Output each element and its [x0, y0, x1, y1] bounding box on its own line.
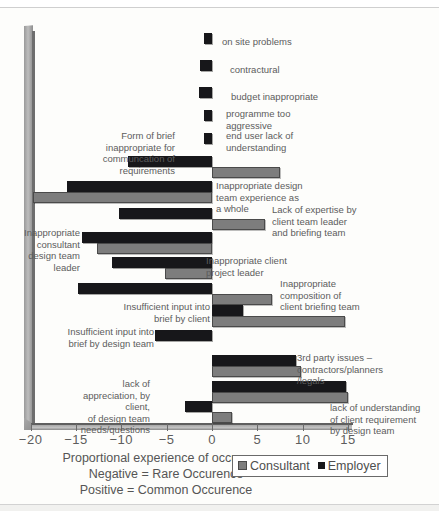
bar-employer-9	[112, 257, 212, 268]
bar-consultant-11	[212, 316, 345, 327]
category-label-insufficient-input-client: Insufficient input into brief by client	[118, 301, 210, 324]
bar-employer-1	[200, 60, 212, 71]
bar-employer-0	[204, 33, 212, 44]
category-label-inappropriate-client-pl: Inappropriate client project leader	[206, 255, 316, 278]
x-tick-0	[31, 424, 32, 431]
bar-employer-3	[204, 110, 212, 121]
legend-swatch-employer-icon	[318, 462, 325, 469]
x-tick-label-6: 10	[295, 432, 310, 447]
category-label-third-party: 3rd party issues – contractors/planners …	[297, 352, 409, 387]
bar-consultant-13	[212, 366, 301, 377]
x-tick-label-5: 5	[253, 432, 261, 447]
category-label-lack-of-expertise: Lack of expertise by client team leader …	[272, 204, 392, 239]
category-label-lack-of-appreciation: lack of appreciation, by client, of desi…	[60, 378, 150, 436]
x-tick-label-3: −5	[159, 432, 175, 447]
bar-consultant-15	[212, 412, 232, 423]
bar-employer-11	[212, 305, 243, 316]
bar-employer-6	[67, 181, 212, 192]
category-label-insufficient-input-design: Insufficient input into brief by design …	[62, 326, 154, 349]
bar-employer-4	[204, 133, 212, 144]
bar-consultant-5	[212, 167, 280, 178]
bar-employer-13	[212, 355, 296, 366]
bar-consultant-14	[212, 392, 348, 403]
bar-employer-7	[119, 208, 212, 219]
category-label-programme-too-aggressive: programme too aggressive	[226, 108, 336, 131]
bar-consultant-10	[212, 294, 272, 305]
category-label-form-of-brief: Form of brief inappropriate for communca…	[60, 130, 175, 176]
category-label-lack-of-understanding: lack of understanding of client requirem…	[330, 402, 439, 437]
x-axis-note-positive: Positive = Common Occurence	[18, 482, 314, 498]
legend-entry-consultant: Consultant	[238, 459, 310, 473]
x-tick-6	[303, 424, 304, 431]
legend-swatch-consultant-icon	[238, 461, 247, 470]
x-tick-3	[167, 424, 168, 431]
category-label-inappropriate-composition: Inappropriate composition of client brie…	[280, 278, 390, 313]
bar-consultant-6	[33, 192, 212, 203]
bar-employer-2	[199, 87, 212, 98]
chart-page: −20−15−10−5051015 on site problems contr…	[0, 0, 439, 511]
category-label-inappropriate-consultant: Inappropriate consultant design team lea…	[10, 227, 80, 273]
category-label-end-user-lack: end user lack of understanding	[226, 130, 336, 153]
x-tick-label-4: 0	[208, 432, 216, 447]
x-tick-label-0: −20	[19, 432, 43, 447]
x-tick-4	[212, 424, 213, 431]
legend-entry-employer: Employer	[318, 459, 381, 473]
legend-label-consultant: Consultant	[250, 459, 310, 473]
category-label-budget-inappropriate: budget inappropriate	[231, 91, 351, 103]
chart-legend: Consultant Employer	[232, 455, 388, 477]
bar-employer-10	[78, 283, 212, 294]
bar-consultant-8	[97, 243, 212, 254]
category-label-on-site-problems: on site problems	[222, 36, 332, 48]
bar-consultant-7	[212, 219, 265, 230]
x-tick-5	[257, 424, 258, 431]
bar-employer-12	[155, 330, 212, 341]
bar-employer-15	[185, 401, 212, 412]
bar-consultant-9	[165, 268, 212, 279]
bar-chart-plot: −20−15−10−5051015 on site problems contr…	[0, 0, 439, 511]
bar-employer-8	[82, 232, 212, 243]
legend-label-employer: Employer	[328, 459, 381, 473]
category-label-contractural: contractural	[230, 64, 340, 76]
